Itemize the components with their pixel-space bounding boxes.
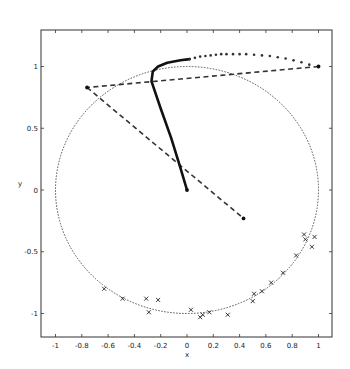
trajectory-dot [308,63,311,66]
trajectory-dot [188,58,191,61]
trajectory-dot [245,53,248,56]
x-marker [252,292,256,296]
x-marker [269,281,273,285]
trajectory-dot [276,56,279,59]
x-marker [156,298,160,302]
y-tick-label: 1 [34,63,38,71]
x-tick-label: -0.2 [154,342,168,350]
trajectory-dot [232,53,235,56]
x-tick-label: 1 [316,342,320,350]
trajectory-dot [225,53,228,56]
x-marker [294,253,298,257]
trajectory-dot [199,55,202,58]
x-marker [260,289,264,293]
trajectory-dot [209,54,212,57]
y-axis-label: y [18,180,22,188]
tick-labels: -1-0.8-0.6-0.4-0.200.20.40.60.81-1-0.500… [24,63,320,350]
x-axis-label: x [185,351,189,359]
sample-x-markers [102,232,316,319]
trajectory-markers [188,53,319,68]
x-tick-label: -0.4 [128,342,142,350]
x-tick-label: 0.6 [260,342,272,350]
x-marker [313,235,317,239]
trajectory-path [151,59,189,190]
x-marker [144,297,148,301]
x-marker [302,232,306,236]
x-tick-label: -0.6 [101,342,115,350]
x-marker [189,308,193,312]
x-tick-label: 0 [185,342,189,350]
x-marker [226,313,230,317]
trajectory-dot [253,53,256,56]
trajectory-dot [300,61,303,64]
trajectory-dot [220,53,223,56]
endpoint-dot [85,86,89,90]
trajectory-dot [284,57,287,60]
trajectory-dot [194,57,197,60]
endpoint-dot [185,188,189,192]
trajectory-dot [292,59,295,62]
plot-canvas: -1-0.8-0.6-0.4-0.200.20.40.60.81-1-0.500… [0,0,350,369]
x-marker [201,313,205,317]
trajectory-line [151,59,189,190]
y-tick-label: -1 [31,310,38,318]
endpoint-markers [85,65,320,221]
dashed-segment [87,87,243,218]
x-marker [303,237,307,241]
trajectory-dot [238,53,241,56]
trajectory-dot [215,53,218,56]
x-tick-label: -1 [52,342,59,350]
trajectory-dot [269,55,272,58]
dashed-segments [87,67,318,219]
trajectory-dot [261,54,264,57]
x-marker [310,245,314,249]
x-marker [207,310,211,314]
endpoint-dot [317,65,321,69]
y-tick-label: 0 [34,187,38,195]
y-tick-label: -0.5 [24,248,38,256]
axis-ticks [41,30,332,337]
dashed-segment [87,67,318,88]
x-tick-label: 0.4 [234,342,246,350]
trajectory-dot [204,55,207,58]
x-tick-label: 0.2 [208,342,219,350]
x-tick-label: -0.8 [75,342,89,350]
x-marker [147,310,151,314]
endpoint-dot [242,217,246,221]
plot-frame [41,30,332,337]
y-tick-label: 0.5 [27,125,38,133]
x-marker [251,299,255,303]
x-tick-label: 0.8 [287,342,298,350]
x-marker [102,287,106,291]
